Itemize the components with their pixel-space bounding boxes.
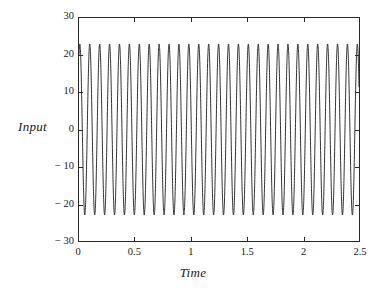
plot-frame bbox=[78, 17, 360, 242]
x-tick-mark bbox=[304, 237, 305, 242]
y-tick-label: − 20 bbox=[55, 198, 74, 209]
y-tick-mark-right bbox=[355, 205, 360, 206]
x-tick-label: 0 bbox=[58, 246, 98, 257]
x-tick-label: 1.5 bbox=[227, 246, 267, 257]
y-tick-mark bbox=[78, 130, 83, 131]
x-tick-label: 0.5 bbox=[114, 246, 154, 257]
y-tick-mark bbox=[78, 55, 83, 56]
x-tick-mark-top bbox=[304, 17, 305, 22]
x-tick-mark-top bbox=[191, 17, 192, 22]
figure-container: Input Time 3020100− 10− 20− 3000.511.522… bbox=[0, 0, 386, 297]
x-tick-label: 2.5 bbox=[340, 246, 380, 257]
x-tick-mark bbox=[134, 237, 135, 242]
x-tick-label: 2 bbox=[284, 246, 324, 257]
sine-wave-curve bbox=[79, 18, 359, 241]
y-tick-label: 10 bbox=[64, 85, 75, 96]
y-tick-label: − 30 bbox=[55, 235, 74, 246]
x-tick-mark-top bbox=[134, 17, 135, 22]
y-tick-mark-right bbox=[355, 92, 360, 93]
y-tick-mark bbox=[78, 205, 83, 206]
y-tick-mark bbox=[78, 167, 83, 168]
y-tick-mark bbox=[78, 92, 83, 93]
y-tick-label: 30 bbox=[64, 10, 75, 21]
y-axis-label: Input bbox=[18, 119, 47, 135]
x-tick-mark-top bbox=[247, 17, 248, 22]
y-tick-label: − 10 bbox=[55, 160, 74, 171]
x-tick-label: 1 bbox=[171, 246, 211, 257]
x-axis-label: Time bbox=[0, 265, 386, 281]
x-tick-mark bbox=[191, 237, 192, 242]
y-tick-label: 20 bbox=[64, 48, 75, 59]
x-tick-mark bbox=[247, 237, 248, 242]
y-tick-label: 0 bbox=[69, 123, 74, 134]
y-tick-mark-right bbox=[355, 130, 360, 131]
y-tick-mark-right bbox=[355, 55, 360, 56]
y-tick-mark-right bbox=[355, 167, 360, 168]
